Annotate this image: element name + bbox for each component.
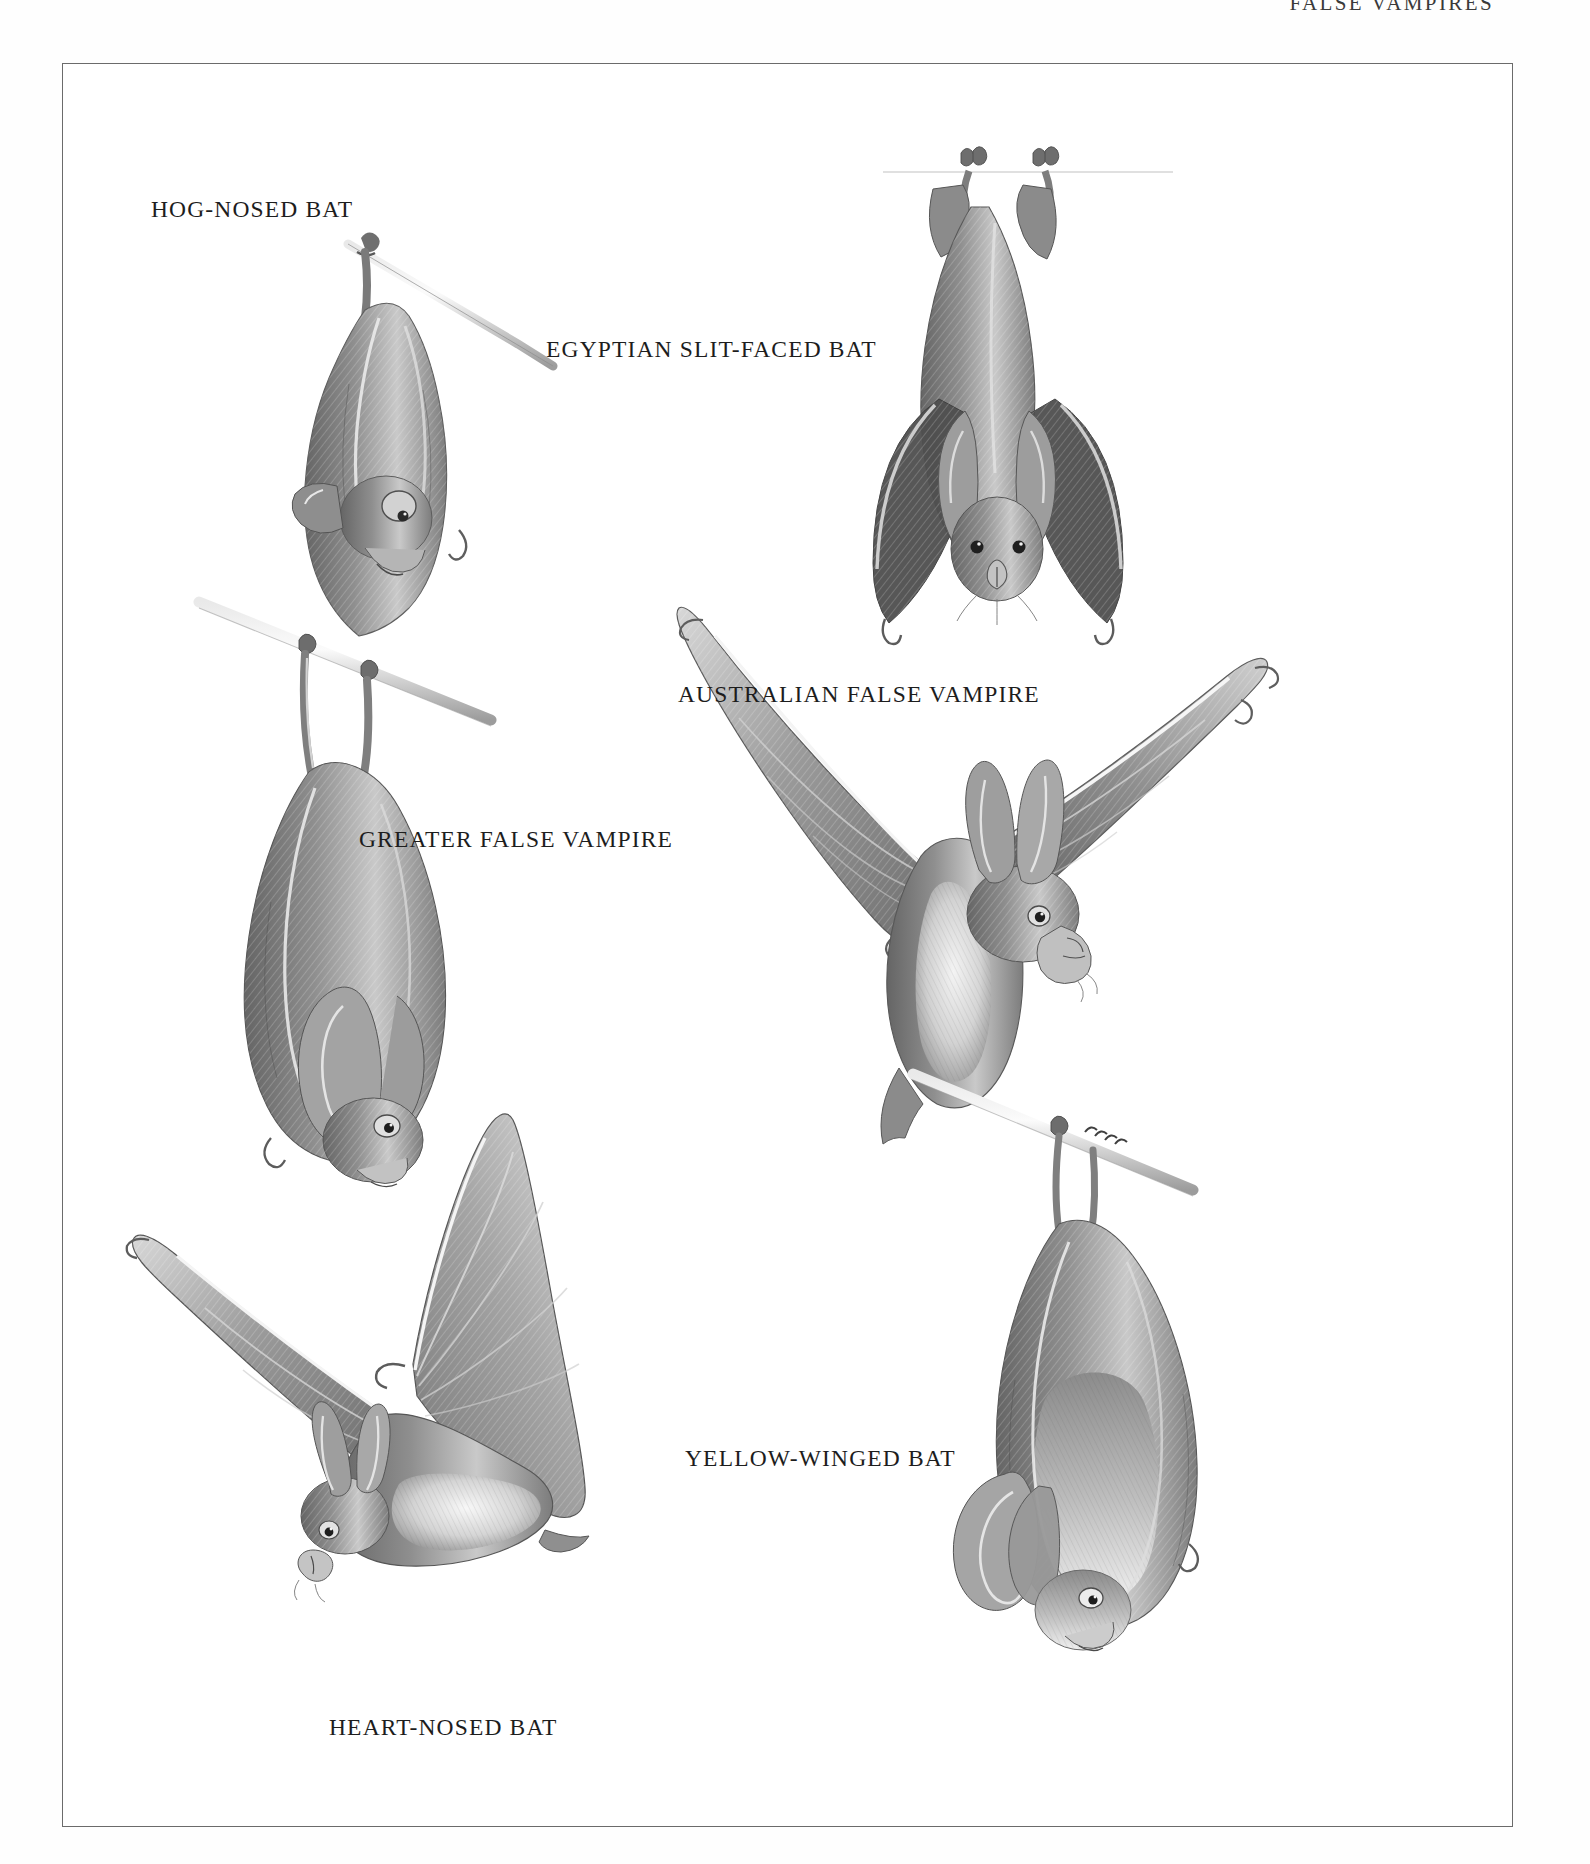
figure-yellow-winged-bat — [913, 1074, 1198, 1651]
label-heart-nosed-bat: HEART-NOSED BAT — [329, 1714, 557, 1741]
figure-hog-nosed-bat — [292, 233, 553, 636]
plate-page: FALSE VAMPIRES — [0, 0, 1590, 1864]
label-australian-false-vampire: AUSTRALIAN FALSE VAMPIRE — [678, 681, 1040, 708]
label-hog-nosed-bat: HOG-NOSED BAT — [151, 196, 353, 223]
figure-egyptian-slit-faced-bat — [873, 147, 1173, 644]
label-greater-false-vampire: GREATER FALSE VAMPIRE — [359, 826, 673, 853]
label-egyptian-slit-faced-bat: EGYPTIAN SLIT-FACED BAT — [546, 336, 877, 363]
label-yellow-winged-bat: YELLOW-WINGED BAT — [685, 1445, 956, 1472]
figure-heart-nosed-bat — [127, 1114, 589, 1602]
plate-illustration-canvas — [63, 64, 1514, 1828]
plate-frame: HOG-NOSED BAT EGYPTIAN SLIT-FACED BAT AU… — [62, 63, 1513, 1827]
figure-greater-false-vampire — [199, 602, 491, 1187]
running-head: FALSE VAMPIRES — [0, 0, 1494, 16]
